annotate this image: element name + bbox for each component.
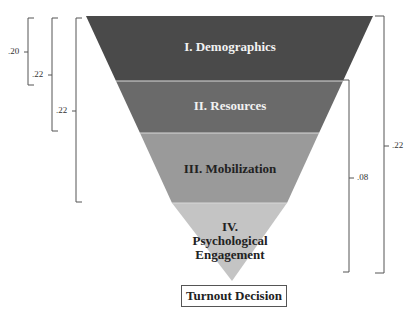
stage-label-psych-line1: IV.	[180, 220, 280, 234]
stage-label-psych-line3: Engagement	[160, 248, 300, 262]
left-coef-1: .20	[8, 46, 19, 56]
left-bracket-3	[72, 18, 82, 202]
left-coef-3: .22	[56, 105, 67, 115]
stage-label-mobilization: III. Mobilization	[130, 161, 330, 177]
right-coef-2: .22	[392, 140, 403, 150]
stage-label-demographics: I. Demographics	[130, 39, 330, 55]
right-bracket-2	[375, 16, 389, 273]
stage-label-resources: II. Resources	[130, 98, 330, 114]
right-bracket-1	[343, 80, 354, 272]
turnout-decision-box: Turnout Decision	[181, 285, 287, 307]
right-coef-1: .08	[357, 172, 368, 182]
left-coef-2: .22	[32, 69, 43, 79]
stage-label-psych-line2: Psychological	[160, 234, 300, 248]
